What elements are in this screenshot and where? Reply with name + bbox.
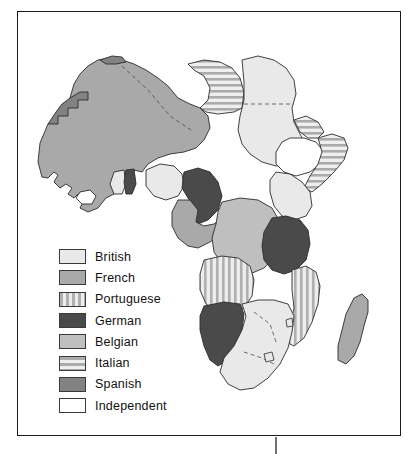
map-legend: British French Portuguese German Belgian… [59, 246, 209, 416]
legend-swatch-belgian [59, 334, 86, 349]
page-edge-tick [275, 437, 277, 454]
legend-label-british: British [95, 250, 131, 264]
legend-label-portuguese: Portuguese [95, 292, 161, 306]
legend-item-belgian: Belgian [59, 331, 209, 352]
legend-label-french: French [95, 271, 135, 285]
legend-item-portuguese: Portuguese [59, 289, 209, 310]
region-nigeria [146, 164, 184, 200]
region-togoland [124, 169, 136, 194]
legend-item-german: German [59, 310, 209, 331]
legend-swatch-french [59, 270, 86, 285]
legend-swatch-independent [59, 398, 86, 413]
region-british-east-africa [270, 172, 312, 220]
legend-item-british: British [59, 246, 209, 267]
region-italian-libya [188, 60, 244, 114]
legend-label-german: German [95, 314, 141, 328]
region-madagascar [338, 294, 368, 364]
legend-item-independent: Independent [59, 395, 209, 416]
figure-frame: British French Portuguese German Belgian… [17, 11, 401, 436]
figure-page: British French Portuguese German Belgian… [0, 0, 418, 454]
legend-label-italian: Italian [95, 356, 130, 370]
legend-item-italian: Italian [59, 352, 209, 373]
legend-label-independent: Independent [95, 399, 167, 413]
region-spanish-morocco [100, 56, 126, 64]
legend-swatch-spanish [59, 377, 86, 392]
legend-swatch-italian [59, 356, 86, 371]
legend-item-spanish: Spanish [59, 374, 209, 395]
legend-item-french: French [59, 267, 209, 288]
legend-swatch-german [59, 313, 86, 328]
legend-label-spanish: Spanish [95, 377, 142, 391]
legend-swatch-portuguese [59, 292, 86, 307]
region-german-east-africa [262, 216, 310, 274]
legend-swatch-british [59, 249, 86, 264]
legend-label-belgian: Belgian [95, 335, 138, 349]
